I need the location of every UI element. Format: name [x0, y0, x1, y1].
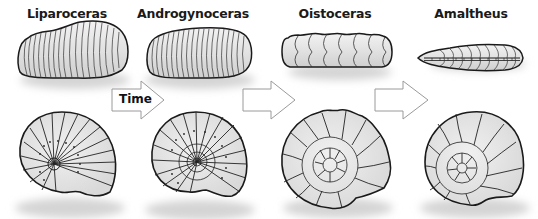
time-arrows: [112, 81, 428, 119]
oistoceras-ventral-view: [282, 33, 392, 67]
time-arrow-label: Time: [119, 92, 152, 106]
androgynoceras-ventral-view: [147, 28, 252, 78]
liparoceras-lateral-view: [20, 112, 116, 196]
amaltheus-lateral-view: [425, 112, 524, 205]
androgynoceras-lateral-view: [152, 112, 247, 196]
liparoceras-ventral-view: [18, 21, 128, 79]
arrow-3-icon: [375, 81, 428, 119]
arrow-2-icon: [243, 81, 295, 119]
oistoceras-lateral-view: [282, 110, 391, 209]
ammonite-evolution-diagram: [0, 0, 538, 219]
